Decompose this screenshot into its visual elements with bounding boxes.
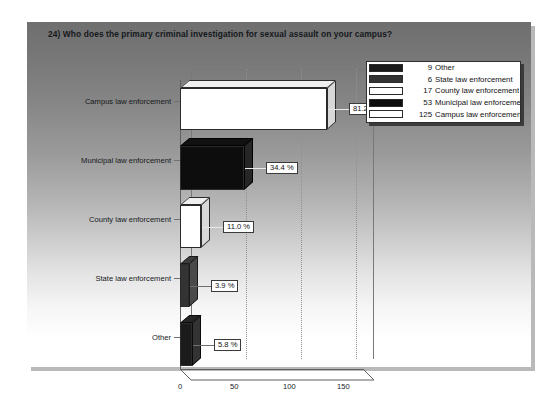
legend-item-state: 6 State law enforcement xyxy=(367,74,520,86)
y-axis-label-other: Other xyxy=(27,333,171,342)
leader-line-county xyxy=(202,227,224,228)
y-tick-campus xyxy=(174,101,180,102)
bar-campus-law-enforcement xyxy=(180,80,327,122)
data-label-municipal: 34.4 % xyxy=(266,162,298,174)
leader-line-other xyxy=(193,345,215,346)
chart-legend: 9 Other 6 State law enforcement 17 Count… xyxy=(366,61,521,123)
bar-side-face xyxy=(192,315,201,366)
x-tick-label-0: 0 xyxy=(178,382,182,391)
legend-swatch-county xyxy=(369,87,403,95)
leader-line-campus xyxy=(328,109,350,110)
x-tick-label-100: 100 xyxy=(283,382,296,391)
leader-line-municipal xyxy=(245,168,267,169)
y-tick-state xyxy=(174,278,180,279)
bar-side-face xyxy=(244,138,253,190)
x-tick-label-50: 50 xyxy=(230,382,238,391)
data-label-county: 11.0 % xyxy=(223,221,254,233)
legend-count-county: 17 xyxy=(407,86,432,95)
y-axis-label-state: State law enforcement xyxy=(27,274,171,283)
legend-swatch-other xyxy=(369,64,403,72)
y-axis-label-municipal: Municipal law enforcement xyxy=(27,156,171,165)
plot-area: 81.2 % 34.4 % 11.0 % 3.9 % 5.8 % 0 50 10… xyxy=(153,58,368,370)
bar-side-face xyxy=(189,256,198,307)
legend-label-municipal: Municipal law enforcemen xyxy=(435,98,520,107)
data-label-state: 3.9 % xyxy=(211,280,238,292)
bar-front-face xyxy=(180,264,189,307)
bar-front-face xyxy=(180,205,201,248)
bar-side-face xyxy=(201,197,210,248)
legend-swatch-campus xyxy=(369,110,403,118)
legend-label-county: County law enforcement xyxy=(435,86,519,95)
legend-label-state: State law enforcement xyxy=(435,75,513,84)
x-tick-label-150: 150 xyxy=(337,382,350,391)
bar-county-law-enforcement xyxy=(180,197,201,240)
y-axis-label-campus: Campus law enforcement xyxy=(27,97,171,106)
legend-item-municipal: 53 Municipal law enforcemen xyxy=(367,97,520,109)
plot-floor-3d xyxy=(180,369,374,381)
legend-count-municipal: 53 xyxy=(407,98,432,107)
chart-screenshot: 24) Who does the primary criminal invest… xyxy=(0,0,559,396)
bar-municipal-law-enforcement xyxy=(180,138,244,182)
bar-front-face xyxy=(180,146,244,190)
bar-state-law-enforcement xyxy=(180,256,189,299)
bar-front-face xyxy=(180,323,192,366)
legend-swatch-state xyxy=(369,75,403,83)
legend-count-other: 9 xyxy=(407,63,432,72)
legend-count-campus: 125 xyxy=(407,110,432,119)
legend-label-campus: Campus law enforcement xyxy=(435,110,520,119)
leader-line-state xyxy=(190,286,212,287)
legend-swatch-municipal xyxy=(369,99,403,107)
bar-other xyxy=(180,315,192,358)
data-label-other: 5.8 % xyxy=(214,339,241,351)
legend-item-county: 17 County law enforcement xyxy=(367,85,520,97)
bar-front-face xyxy=(180,88,327,130)
bar-top-face xyxy=(180,80,337,88)
y-tick-other xyxy=(174,337,180,338)
y-tick-county xyxy=(174,219,180,220)
bar-side-face xyxy=(327,80,336,130)
y-tick-municipal xyxy=(174,160,180,161)
chart-title: 24) Who does the primary criminal invest… xyxy=(48,29,468,39)
legend-item-campus: 125 Campus law enforcement xyxy=(367,108,520,120)
legend-item-other: 9 Other xyxy=(367,62,520,74)
y-axis-label-county: County law enforcement xyxy=(27,215,171,224)
bar-top-face xyxy=(180,138,254,146)
legend-count-state: 6 xyxy=(407,75,432,84)
legend-label-other: Other xyxy=(435,63,455,72)
